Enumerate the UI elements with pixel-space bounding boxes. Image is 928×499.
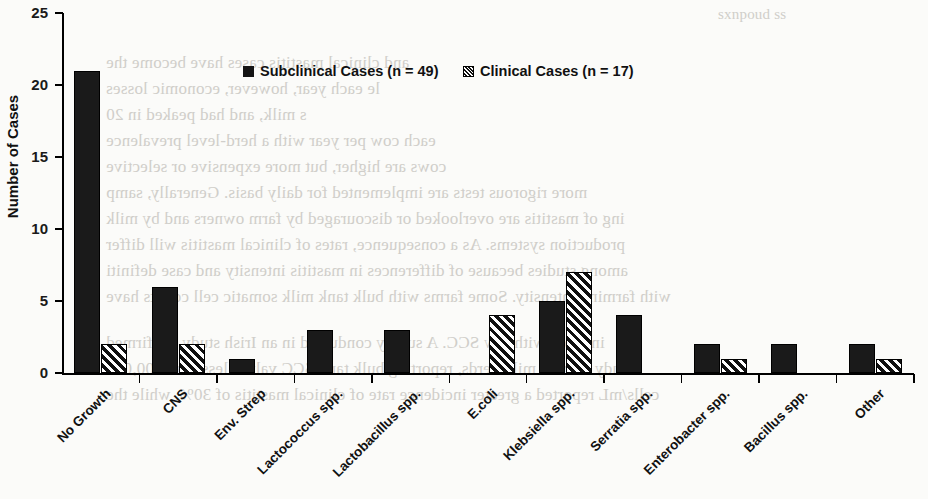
bar-clinical-1	[179, 344, 205, 373]
y-tick-0	[55, 372, 63, 374]
bar-clinical-0	[101, 344, 127, 373]
bar-subclinical-1	[152, 287, 178, 373]
y-tick-15	[55, 156, 63, 158]
x-tick-3	[371, 374, 373, 383]
y-tick-10	[55, 228, 63, 230]
bar-clinical-8	[721, 359, 747, 373]
y-tick-label-25: 25	[0, 5, 48, 20]
legend-swatch-hatched-square-icon	[463, 66, 474, 77]
bar-subclinical-4	[384, 330, 410, 373]
y-tick-20	[55, 84, 63, 86]
x-tick-9	[836, 374, 838, 383]
y-tick-label-10: 10	[0, 221, 48, 236]
legend-item-subclinical: Subclinical Cases (n = 49)	[243, 63, 439, 79]
x-tick-2	[294, 374, 296, 383]
legend-item-clinical: Clinical Cases (n = 17)	[463, 63, 634, 79]
y-tick-5	[55, 300, 63, 302]
x-tick-7	[681, 374, 683, 383]
bar-subclinical-8	[694, 344, 720, 373]
x-tick-4	[449, 374, 451, 383]
y-tick-label-20: 20	[0, 77, 48, 92]
bar-subclinical-10	[849, 344, 875, 373]
x-tick-8	[758, 374, 760, 383]
y-tick-label-5: 5	[0, 293, 48, 308]
bar-subclinical-7	[616, 315, 642, 373]
x-axis-line	[62, 373, 914, 375]
bar-subclinical-6	[539, 301, 565, 373]
bar-subclinical-3	[307, 330, 333, 373]
bar-chart: Number of Cases 0510152025 No GrowthCNSE…	[0, 0, 928, 499]
bar-clinical-5	[489, 315, 515, 373]
bar-subclinical-2	[229, 359, 255, 373]
x-tick-10	[913, 374, 915, 383]
y-tick-25	[55, 12, 63, 14]
legend-label-subclinical: Subclinical Cases (n = 49)	[260, 63, 439, 79]
y-tick-label-0: 0	[0, 365, 48, 380]
legend-label-clinical: Clinical Cases (n = 17)	[480, 63, 634, 79]
bar-clinical-6	[566, 272, 592, 373]
bar-subclinical-0	[74, 71, 100, 373]
bar-clinical-10	[876, 359, 902, 373]
legend-swatch-solid-square-icon	[243, 66, 254, 77]
bar-subclinical-9	[771, 344, 797, 373]
y-axis-line	[62, 13, 64, 374]
x-tick-1	[216, 374, 218, 383]
x-tick-5	[526, 374, 528, 383]
x-tick-6	[603, 374, 605, 383]
x-tick-0	[139, 374, 141, 383]
y-tick-label-15: 15	[0, 149, 48, 164]
